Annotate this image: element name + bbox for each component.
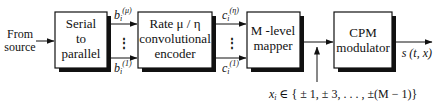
block-label-line: M -level: [251, 23, 296, 38]
block-label-line: convolutional: [139, 31, 211, 46]
cpm-modulator-block: CPM modulator: [334, 12, 396, 72]
bus1-top-label: bi(μ): [114, 6, 132, 23]
block-diagram: From source Serial to parallel bi(μ) ⋮ b…: [0, 0, 436, 104]
output-label: s (t, x): [402, 46, 432, 60]
block-label-line: Rate μ / η: [150, 16, 201, 31]
block-label-line: CPM: [349, 25, 377, 40]
block-label-line: Serial: [66, 16, 97, 31]
bus2-ellipsis: ⋮: [226, 36, 238, 50]
bus2-top-label: ci(η): [222, 6, 239, 23]
block-label-line: mapper: [254, 38, 294, 53]
input-label-line1: From: [7, 27, 34, 41]
serial-to-parallel-block: Serial to parallel: [55, 12, 111, 72]
block-label-line: parallel: [62, 46, 101, 61]
symbol-set-label: xi ∈ { ± 1, ± 3, . . . , ±(M − 1)}: [268, 87, 417, 102]
convolutional-encoder-block: Rate μ / η convolutional encoder: [138, 12, 216, 72]
bus1-bottom-label: bi(1): [114, 59, 132, 76]
block-label-line: to: [76, 31, 86, 46]
bus2-bottom-label: ci(1): [222, 59, 239, 76]
input-label-line2: source: [4, 40, 35, 54]
m-level-mapper-block: M -level mapper: [247, 12, 304, 72]
bus1-ellipsis: ⋮: [118, 36, 130, 50]
block-label-line: encoder: [154, 46, 196, 61]
block-label-line: modulator: [336, 40, 390, 55]
